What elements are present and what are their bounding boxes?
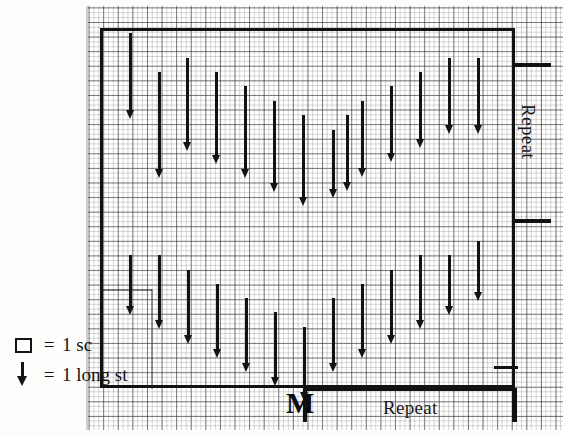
long-stitch-arrow: [329, 298, 338, 373]
long-stitch-arrow: [416, 255, 425, 330]
long-stitch-arrow: [358, 284, 367, 359]
repeat-bracket-bottom-tick: [513, 219, 551, 223]
long-stitch-arrow: [126, 33, 135, 120]
repeat-bracket-bottom-right-tick: [512, 388, 517, 422]
long-stitch-arrow: [212, 72, 221, 165]
long-stitch-arrow: [329, 130, 338, 199]
long-stitch-arrow: [270, 101, 279, 193]
long-stitch-arrow: [445, 58, 454, 135]
long-stitch-arrow: [213, 284, 222, 359]
marker-label: M: [286, 388, 314, 418]
long-stitch-arrow: [343, 115, 352, 192]
long-stitch-arrow: [126, 255, 135, 316]
long-stitch-arrow: [416, 72, 425, 149]
sc-square-icon: [8, 338, 38, 353]
chart-canvas: Repeat Repeat M = 1 sc = 1 long st: [0, 0, 563, 436]
long-stitch-arrow: [155, 72, 164, 179]
legend-row-long-st: = 1 long st: [8, 360, 188, 390]
long-stitch-arrow: [358, 101, 367, 178]
long-stitch-arrow: [474, 241, 483, 302]
long-stitch-arrow: [299, 115, 308, 207]
long-stitch-arrow: [241, 86, 250, 179]
repeat-bracket-top-tick: [513, 63, 551, 67]
long-stitch-arrow: [474, 58, 483, 135]
long-stitch-arrow-icon: [8, 362, 38, 388]
legend-text-long-st: 1 long st: [60, 364, 127, 386]
long-stitch-arrow: [155, 255, 164, 330]
repeat-bracket-bottom-bar: [303, 388, 517, 391]
repeat-label-vertical: Repeat: [515, 104, 539, 184]
legend-text-sc: 1 sc: [60, 334, 92, 356]
long-stitch-arrow: [271, 312, 280, 387]
legend-equals-sc: =: [38, 334, 60, 356]
legend-equals-long-st: =: [38, 364, 60, 386]
legend: = 1 sc = 1 long st: [8, 330, 188, 390]
long-stitch-arrow: [445, 255, 454, 316]
long-stitch-arrow: [387, 86, 396, 163]
long-stitch-arrow: [183, 58, 192, 152]
outline-bottom-right-stub: [494, 366, 518, 369]
long-stitch-arrow: [387, 270, 396, 345]
long-stitch-arrow: [242, 298, 251, 373]
legend-row-sc: = 1 sc: [8, 330, 188, 360]
repeat-label-bottom: Repeat: [383, 397, 438, 419]
